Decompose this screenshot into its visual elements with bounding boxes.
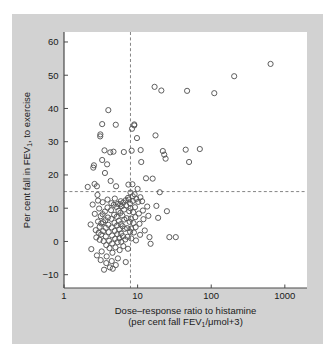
x-tick-label: 100 bbox=[203, 290, 219, 301]
scatter-plot: 1101001000 −100102030405060 Dose–respons… bbox=[0, 0, 335, 356]
y-tick-label: −10 bbox=[42, 269, 58, 280]
y-title-suffix: , to exercise bbox=[21, 92, 32, 143]
figure-container: 1101001000 −100102030405060 Dose–respons… bbox=[0, 0, 335, 356]
x-tick-label: 1000 bbox=[274, 290, 295, 301]
y-tick-label: 10 bbox=[48, 203, 59, 214]
y-tick-label: 20 bbox=[48, 169, 59, 180]
x-axis-title: Dose–response ratio to histamine bbox=[115, 305, 257, 316]
y-tick-label: 50 bbox=[48, 70, 59, 81]
x-tick-label: 10 bbox=[132, 290, 143, 301]
y-tick-label: 0 bbox=[53, 236, 58, 247]
x-subtitle-suffix: /μmol+3) bbox=[205, 316, 242, 327]
y-tick-label: 40 bbox=[48, 103, 59, 114]
y-tick-label: 60 bbox=[48, 36, 59, 47]
y-title-prefix: Per cent fall in FEV bbox=[21, 146, 32, 228]
y-tick-label: 30 bbox=[48, 136, 59, 147]
x-subtitle-prefix: (per cent fall FEV bbox=[128, 316, 202, 327]
x-axis-subtitle: (per cent fall FEV1/μmol+3) bbox=[128, 316, 243, 328]
x-tick-label: 1 bbox=[61, 290, 66, 301]
y-axis-title: Per cent fall in FEV1, to exercise bbox=[21, 92, 33, 228]
